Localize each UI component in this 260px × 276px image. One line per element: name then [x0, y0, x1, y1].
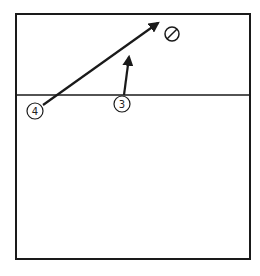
movement-arrow-player-4	[43, 23, 158, 105]
player-4-marker: 4	[27, 103, 43, 119]
player-3-marker: 3	[114, 96, 130, 112]
movement-arrow-player-3	[124, 57, 129, 95]
court-boundary	[16, 14, 250, 259]
target-null-icon	[165, 27, 179, 41]
player-number: 4	[32, 106, 38, 117]
play-diagram: 4 3	[0, 0, 260, 276]
player-number: 3	[119, 99, 125, 110]
